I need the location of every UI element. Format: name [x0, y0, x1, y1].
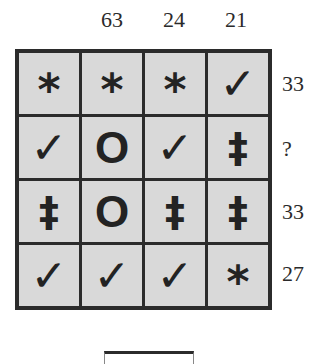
row-total-2-unknown: ?	[282, 135, 316, 163]
grid-cell-r2c2[interactable]: O	[82, 117, 142, 178]
double-dagger-icon: ‡	[228, 192, 248, 232]
grid-cell-r4c2[interactable]: ✓	[82, 245, 142, 306]
row-total-3: 33	[282, 198, 316, 226]
grid-cell-r1c2[interactable]: *	[82, 53, 142, 114]
circle-o-icon: O	[95, 126, 129, 170]
grid-cell-r2c4[interactable]: ‡	[208, 117, 268, 178]
check-icon: ✓	[157, 126, 194, 170]
check-icon: ✓	[220, 62, 257, 106]
double-dagger-icon: ‡	[228, 128, 248, 168]
check-icon: ✓	[31, 126, 68, 170]
grid-cell-r3c4[interactable]: ‡	[208, 181, 268, 242]
check-icon: ✓	[94, 254, 131, 298]
answer-box[interactable]	[104, 351, 194, 364]
row-total-1: 33	[282, 70, 316, 98]
column-total-4: 21	[205, 6, 267, 34]
column-total-3: 24	[143, 6, 205, 34]
grid-cell-r4c1[interactable]: ✓	[19, 245, 79, 306]
double-dagger-icon: ‡	[165, 192, 185, 232]
grid-cell-r3c3[interactable]: ‡	[145, 181, 205, 242]
double-dagger-icon: ‡	[39, 192, 59, 232]
grid-cell-r4c3[interactable]: ✓	[145, 245, 205, 306]
grid-cell-r2c3[interactable]: ✓	[145, 117, 205, 178]
star-icon: *	[100, 68, 123, 112]
grid-cell-r3c2[interactable]: O	[82, 181, 142, 242]
check-icon: ✓	[31, 254, 68, 298]
star-icon: *	[226, 260, 249, 304]
symbol-grid: * * * ✓ ✓ O ✓ ‡ ‡ O ‡ ‡ ✓ ✓ ✓ *	[15, 49, 272, 310]
grid-cell-r2c1[interactable]: ✓	[19, 117, 79, 178]
grid-cell-r1c4[interactable]: ✓	[208, 53, 268, 114]
grid-cell-r1c3[interactable]: *	[145, 53, 205, 114]
circle-o-icon: O	[95, 190, 129, 234]
star-icon: *	[163, 68, 186, 112]
grid-cell-r1c1[interactable]: *	[19, 53, 79, 114]
star-icon: *	[37, 68, 60, 112]
grid-cell-r3c1[interactable]: ‡	[19, 181, 79, 242]
grid-cell-r4c4[interactable]: *	[208, 245, 268, 306]
row-total-4: 27	[282, 260, 316, 288]
check-icon: ✓	[157, 254, 194, 298]
column-total-2: 63	[81, 6, 143, 34]
